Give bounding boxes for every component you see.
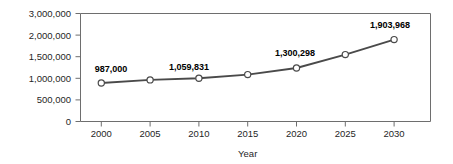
- x-tick-label-2020: 2020: [286, 128, 307, 139]
- data-point-2020: [293, 65, 299, 71]
- data-point-2000: [98, 80, 104, 86]
- data-point-2010: [196, 75, 202, 81]
- data-label-2000: 987,000: [95, 64, 128, 74]
- x-axis-tick-labels: 2000 2005 2010 2015 2020 2025 2030: [91, 128, 405, 139]
- x-tick-label-2010: 2010: [188, 128, 209, 139]
- data-point-2015: [245, 72, 251, 78]
- y-tick-label-0: 0: [66, 116, 71, 127]
- data-label-2020: 1,300,298: [275, 48, 315, 58]
- x-tick-label-2005: 2005: [140, 128, 161, 139]
- y-axis-ticks: [76, 14, 81, 122]
- series-markers: [98, 37, 397, 87]
- data-point-labels: 987,000 1,059,831 1,300,298 1,903,968: [95, 20, 410, 74]
- data-label-2010: 1,059,831: [169, 62, 209, 72]
- x-axis-ticks: [101, 122, 394, 127]
- y-axis-tick-labels: 3,000,000 2,000,000 1,500,000 1,000,000 …: [29, 8, 71, 127]
- chart-canvas: 3,000,000 2,000,000 1,500,000 1,000,000 …: [0, 0, 453, 164]
- x-axis-title: Year: [238, 148, 257, 159]
- x-tick-label-2015: 2015: [237, 128, 258, 139]
- line-chart: 3,000,000 2,000,000 1,500,000 1,000,000 …: [0, 0, 453, 164]
- data-label-2030: 1,903,968: [370, 20, 410, 30]
- x-tick-label-2030: 2030: [384, 128, 405, 139]
- y-tick-label-2000000: 2,000,000: [29, 30, 71, 41]
- y-tick-label-1000000: 1,000,000: [29, 73, 71, 84]
- data-point-2005: [147, 77, 153, 83]
- data-point-2030: [391, 37, 397, 43]
- y-tick-label-500000: 500,000: [37, 94, 71, 105]
- x-tick-label-2025: 2025: [335, 128, 356, 139]
- y-tick-label-3000000: 3,000,000: [29, 8, 71, 19]
- x-tick-label-2000: 2000: [91, 128, 112, 139]
- y-tick-label-1500000: 1,500,000: [29, 51, 71, 62]
- data-point-2025: [342, 52, 348, 58]
